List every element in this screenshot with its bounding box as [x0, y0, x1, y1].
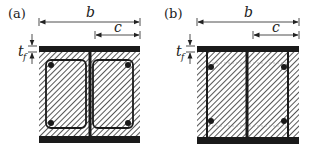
panel-b: (b) b c t f — [164, 4, 299, 144]
dimension-b-b: b — [197, 4, 299, 26]
bottom-flange-a — [39, 136, 140, 143]
rebar-icon — [125, 120, 131, 126]
dimension-tf-subscript: f — [22, 52, 28, 62]
top-flange-b — [197, 46, 299, 52]
dimension-c-label: c — [114, 19, 122, 35]
web-a — [89, 52, 92, 136]
panel-b-label: (b) — [164, 6, 182, 21]
bottom-flange-b — [197, 137, 299, 144]
rebar-icon — [48, 120, 54, 126]
composite-sections-diagram: (a) b c t f — [0, 0, 312, 151]
dimension-c-label: c — [272, 19, 280, 35]
dimension-tf-b: t f — [176, 34, 195, 64]
web-b — [246, 52, 249, 137]
link-bar-right-b — [287, 52, 289, 137]
panel-a-label: (a) — [8, 6, 26, 21]
rebar-icon — [208, 118, 214, 124]
rebar-icon — [281, 64, 287, 70]
dimension-tf-subscript: f — [180, 52, 186, 62]
dimension-b-a: b — [39, 4, 140, 26]
rebar-icon — [48, 62, 54, 68]
rebar-icon — [125, 62, 131, 68]
panel-a: (a) b c t f — [8, 4, 140, 143]
dimension-tf-a: t f — [18, 34, 37, 64]
link-bar-left-b — [206, 52, 208, 137]
dimension-b-label: b — [86, 4, 95, 20]
rebar-icon — [208, 64, 214, 70]
top-flange-a — [39, 46, 140, 52]
dimension-b-label: b — [244, 4, 253, 20]
rebar-icon — [281, 118, 287, 124]
